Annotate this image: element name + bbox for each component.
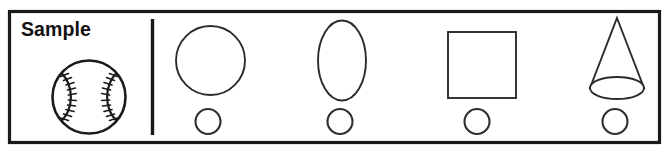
baseball-shape bbox=[53, 61, 126, 134]
option-shape-cone[interactable] bbox=[590, 18, 644, 99]
worksheet-container: Sample bbox=[0, 0, 669, 157]
answer-bubble-3[interactable] bbox=[465, 109, 490, 134]
column-3 bbox=[448, 32, 516, 134]
option-shape-circle[interactable] bbox=[176, 26, 245, 95]
baseball-outline bbox=[53, 61, 126, 134]
column-4 bbox=[590, 18, 644, 134]
option-shape-square[interactable] bbox=[448, 32, 516, 98]
option-shape-ellipse[interactable] bbox=[318, 21, 366, 101]
sample-label: Sample bbox=[21, 18, 91, 40]
baseball-stitches-left bbox=[61, 74, 77, 121]
baseball-stitches-right bbox=[102, 74, 118, 121]
answer-bubble-4[interactable] bbox=[603, 109, 628, 134]
answer-bubble-2[interactable] bbox=[328, 109, 353, 134]
column-1 bbox=[176, 26, 245, 134]
answer-bubble-1[interactable] bbox=[196, 109, 221, 134]
column-2 bbox=[318, 21, 366, 135]
cone-base-ellipse bbox=[590, 77, 644, 99]
